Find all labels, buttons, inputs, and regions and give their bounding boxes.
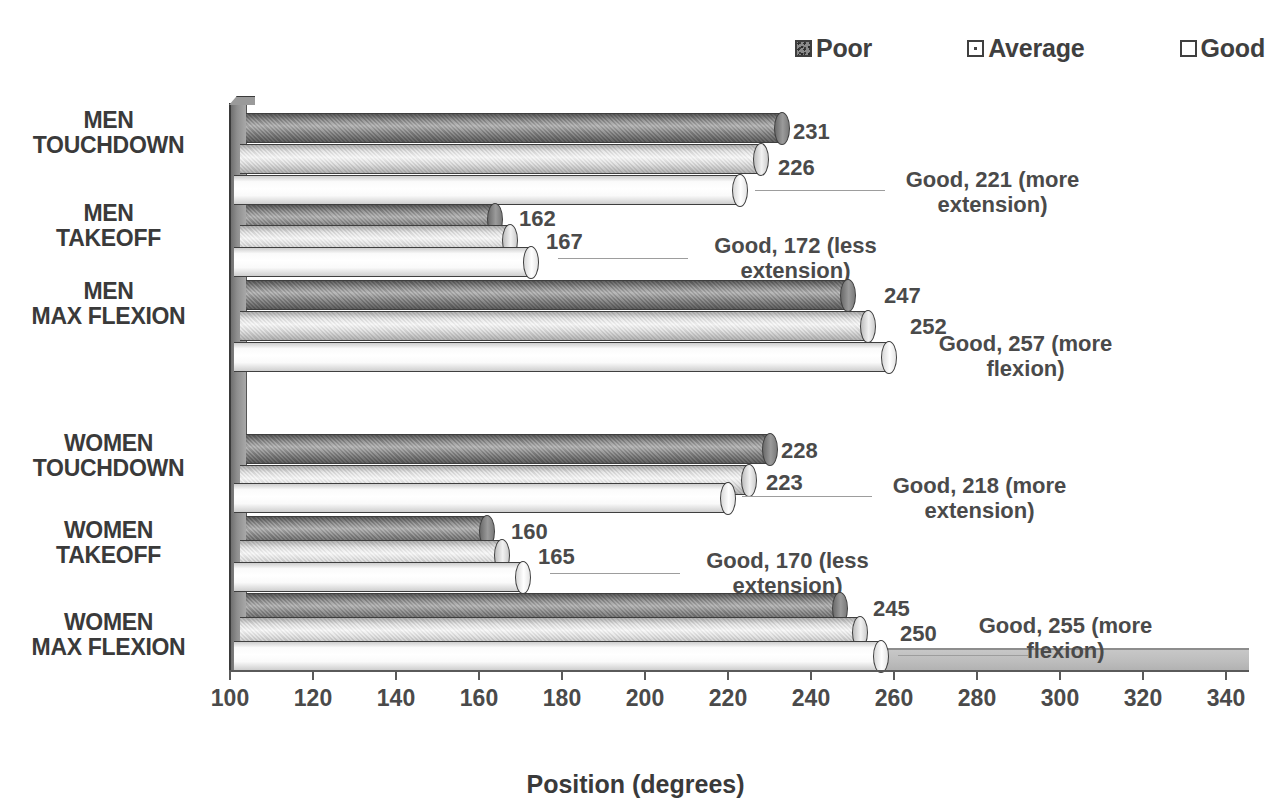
x-tick-320 bbox=[1142, 670, 1144, 680]
leader-line-women-touchdown bbox=[742, 496, 872, 497]
value-label-men-max-flexion-poor: 247 bbox=[884, 283, 921, 309]
value-label-women-max-flexion-average: 250 bbox=[900, 621, 937, 647]
callout-men-max-flexion-good: Good, 257 (more flexion) bbox=[918, 332, 1133, 381]
x-tick-label-260: 260 bbox=[875, 685, 913, 712]
category-label-men-touchdown: MEN TOUCHDOWN bbox=[1, 108, 216, 159]
x-tick-200 bbox=[644, 670, 646, 680]
category-line-2: TOUCHDOWN bbox=[1, 133, 216, 158]
callout-women-takeoff-good: Good, 170 (less extension) bbox=[680, 549, 895, 598]
category-line-1: WOMEN bbox=[1, 518, 216, 543]
x-tick-340 bbox=[1225, 670, 1227, 680]
category-line-1: WOMEN bbox=[1, 610, 216, 635]
x-tick-label-320: 320 bbox=[1124, 685, 1162, 712]
value-label-men-touchdown-average: 226 bbox=[778, 155, 815, 181]
x-tick-260 bbox=[893, 670, 895, 680]
category-label-women-max-flexion: WOMEN MAX FLEXION bbox=[1, 610, 216, 661]
callout-men-takeoff-good: Good, 172 (less extension) bbox=[688, 234, 903, 283]
x-tick-label-120: 120 bbox=[294, 685, 332, 712]
value-label-women-takeoff-average: 165 bbox=[538, 544, 575, 570]
category-line-2: TOUCHDOWN bbox=[1, 456, 216, 481]
x-tick-label-300: 300 bbox=[1041, 685, 1079, 712]
category-line-1: MEN bbox=[1, 279, 216, 304]
category-line-1: MEN bbox=[1, 201, 216, 226]
chart-plot-area: MEN TOUCHDOWN MEN TAKEOFF MEN MAX FLEXIO… bbox=[0, 0, 1271, 810]
chart-left-wall-top bbox=[229, 96, 255, 105]
x-tick-120 bbox=[312, 670, 314, 680]
x-tick-label-140: 140 bbox=[377, 685, 415, 712]
leader-line-men-takeoff bbox=[558, 258, 688, 259]
x-tick-240 bbox=[810, 670, 812, 680]
x-tick-300 bbox=[1059, 670, 1061, 680]
leader-line-women-takeoff bbox=[550, 573, 680, 574]
value-label-men-takeoff-average: 167 bbox=[546, 229, 583, 255]
callout-men-touchdown-good: Good, 221 (more extension) bbox=[885, 168, 1100, 217]
x-tick-100 bbox=[229, 670, 231, 680]
x-tick-280 bbox=[976, 670, 978, 680]
callout-women-max-flexion-good: Good, 255 (more flexion) bbox=[958, 614, 1173, 663]
x-tick-160 bbox=[478, 670, 480, 680]
category-line-2: TAKEOFF bbox=[1, 543, 216, 568]
x-tick-label-240: 240 bbox=[792, 685, 830, 712]
x-tick-label-280: 280 bbox=[958, 685, 996, 712]
value-label-women-touchdown-poor: 228 bbox=[781, 438, 818, 464]
x-tick-label-180: 180 bbox=[543, 685, 581, 712]
x-tick-label-340: 340 bbox=[1207, 685, 1245, 712]
x-tick-label-200: 200 bbox=[626, 685, 664, 712]
x-tick-label-100: 100 bbox=[211, 685, 249, 712]
x-tick-label-160: 160 bbox=[460, 685, 498, 712]
value-label-men-touchdown-poor: 231 bbox=[793, 119, 830, 145]
x-tick-140 bbox=[395, 670, 397, 680]
category-line-2: TAKEOFF bbox=[1, 226, 216, 251]
x-axis-line bbox=[229, 670, 1249, 672]
value-label-women-takeoff-poor: 160 bbox=[511, 519, 548, 545]
category-label-men-max-flexion: MEN MAX FLEXION bbox=[1, 279, 216, 330]
category-line-1: WOMEN bbox=[1, 431, 216, 456]
category-line-2: MAX FLEXION bbox=[1, 304, 216, 329]
x-axis-title: Position (degrees) bbox=[0, 770, 1271, 799]
value-label-women-max-flexion-poor: 245 bbox=[873, 596, 910, 622]
category-line-1: MEN bbox=[1, 108, 216, 133]
category-label-women-takeoff: WOMEN TAKEOFF bbox=[1, 518, 216, 569]
x-tick-220 bbox=[727, 670, 729, 680]
leader-line-men-touchdown bbox=[755, 190, 885, 191]
value-label-women-touchdown-average: 223 bbox=[766, 470, 803, 496]
category-line-2: MAX FLEXION bbox=[1, 635, 216, 660]
x-tick-label-220: 220 bbox=[709, 685, 747, 712]
callout-women-touchdown-good: Good, 218 (more extension) bbox=[872, 474, 1087, 523]
category-label-women-touchdown: WOMEN TOUCHDOWN bbox=[1, 431, 216, 482]
x-tick-180 bbox=[561, 670, 563, 680]
category-label-men-takeoff: MEN TAKEOFF bbox=[1, 201, 216, 252]
